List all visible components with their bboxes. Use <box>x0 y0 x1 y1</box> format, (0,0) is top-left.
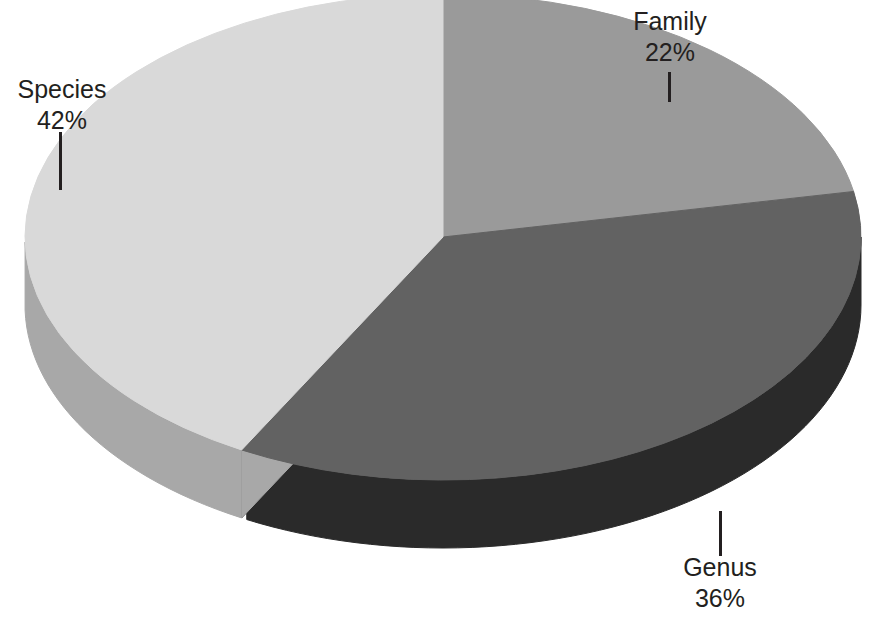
pie-chart: Family 22% Species 42% Genus 36% <box>0 0 873 628</box>
leader-line-family <box>668 72 671 102</box>
slice-label-species-name: Species <box>0 74 140 105</box>
slice-label-family: Family 22% <box>592 6 748 68</box>
slice-label-family-name: Family <box>592 6 748 37</box>
leader-line-genus <box>719 511 722 556</box>
slice-label-genus: Genus 36% <box>642 552 798 614</box>
slice-label-genus-value: 36% <box>642 583 798 614</box>
leader-line-species <box>59 132 62 190</box>
slice-label-species-value: 42% <box>0 105 140 136</box>
slice-label-family-value: 22% <box>592 37 748 68</box>
slice-label-genus-name: Genus <box>642 552 798 583</box>
slice-label-species: Species 42% <box>0 74 140 136</box>
